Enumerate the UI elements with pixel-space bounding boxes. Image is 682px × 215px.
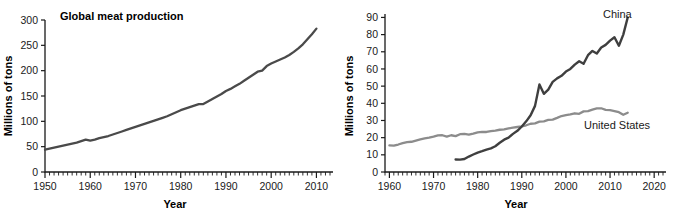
left-x-tick-group: 1950196019701980199020002010 (33, 172, 330, 192)
right-x-tick-group: 1960197019801990200020102020 (378, 172, 666, 192)
left-x-axis-label: Year (163, 198, 187, 210)
two-panel-line-chart-figure: 050100150200250300 195019601970198019902… (0, 0, 682, 215)
left-series-global-meat-production (45, 29, 316, 150)
y-tick-label: 300 (20, 14, 38, 26)
y-tick-label: 150 (20, 90, 38, 102)
series-label-united-states: United States (584, 119, 651, 131)
x-tick-label: 2010 (305, 180, 329, 192)
left-y-tick-group: 050100150200250300 (20, 14, 45, 178)
y-tick-label: 10 (366, 148, 378, 160)
y-tick-label: 20 (366, 131, 378, 143)
y-tick-label: 90 (366, 11, 378, 23)
left-y-axis-label: Millions of tons (2, 56, 14, 137)
y-tick-label: 0 (372, 166, 378, 178)
right-chart-panel: 0102030405060708090 19601970198019902000… (341, 0, 682, 215)
right-chart-svg: 0102030405060708090 19601970198019902000… (341, 0, 682, 215)
y-tick-label: 30 (366, 114, 378, 126)
x-tick-label: 1980 (169, 180, 193, 192)
x-tick-label: 1970 (124, 180, 148, 192)
y-tick-label: 70 (366, 45, 378, 57)
x-tick-label: 1960 (378, 180, 402, 192)
x-tick-label: 1970 (422, 180, 446, 192)
series-label-china: China (603, 8, 633, 20)
right-axis-lines (385, 14, 666, 172)
right-series-china (456, 17, 628, 159)
y-tick-label: 100 (20, 115, 38, 127)
x-tick-label: 2010 (598, 180, 622, 192)
x-tick-label: 1990 (510, 180, 534, 192)
right-y-tick-group: 0102030405060708090 (366, 11, 385, 178)
x-tick-label: 1960 (79, 180, 103, 192)
y-tick-label: 200 (20, 64, 38, 76)
y-tick-label: 40 (366, 97, 378, 109)
y-tick-label: 250 (20, 39, 38, 51)
x-tick-label: 2020 (642, 180, 666, 192)
left-axis-lines (45, 20, 333, 172)
y-tick-label: 50 (366, 80, 378, 92)
right-x-axis-label: Year (504, 198, 528, 210)
y-tick-label: 50 (26, 140, 38, 152)
y-tick-label: 0 (32, 166, 38, 178)
left-chart-svg: 050100150200250300 195019601970198019902… (0, 0, 341, 215)
y-tick-label: 80 (366, 28, 378, 40)
x-tick-label: 2000 (554, 180, 578, 192)
left-chart-panel: 050100150200250300 195019601970198019902… (0, 0, 341, 215)
x-tick-label: 2000 (260, 180, 284, 192)
y-tick-label: 60 (366, 63, 378, 75)
x-tick-label: 1990 (214, 180, 238, 192)
left-chart-title: Global meat production (60, 10, 184, 22)
right-y-axis-label: Millions of tons (343, 56, 355, 137)
x-tick-label: 1980 (466, 180, 490, 192)
x-tick-label: 1950 (33, 180, 57, 192)
